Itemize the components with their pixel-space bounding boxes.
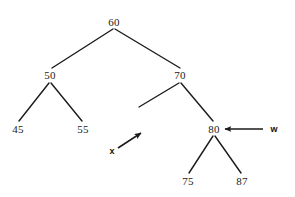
tree-edge <box>51 83 82 121</box>
tree-edge <box>181 83 213 121</box>
tree-edge <box>139 83 179 107</box>
tree-node-45: 45 <box>12 123 23 135</box>
tree-edge <box>215 136 241 173</box>
tree-node-75: 75 <box>182 175 193 187</box>
tree-node-60: 60 <box>108 16 119 28</box>
tree-edge <box>19 83 49 121</box>
pointer-arrow-x <box>118 133 141 148</box>
pointer-label-x: x <box>109 146 114 156</box>
tree-edge <box>52 29 113 68</box>
tree-edge <box>115 29 180 68</box>
tree-diagram-canvas: 6050704555807587 wx <box>0 0 295 197</box>
tree-node-70: 70 <box>174 69 185 81</box>
tree-node-55: 55 <box>77 123 88 135</box>
tree-edge <box>189 136 213 173</box>
tree-node-50: 50 <box>44 69 55 81</box>
tree-edges-svg <box>0 0 295 197</box>
pointer-arrows-group <box>118 129 263 148</box>
tree-node-80: 80 <box>208 123 219 135</box>
edges-group <box>19 29 241 173</box>
pointer-label-w: w <box>270 124 277 134</box>
tree-node-87: 87 <box>236 175 247 187</box>
